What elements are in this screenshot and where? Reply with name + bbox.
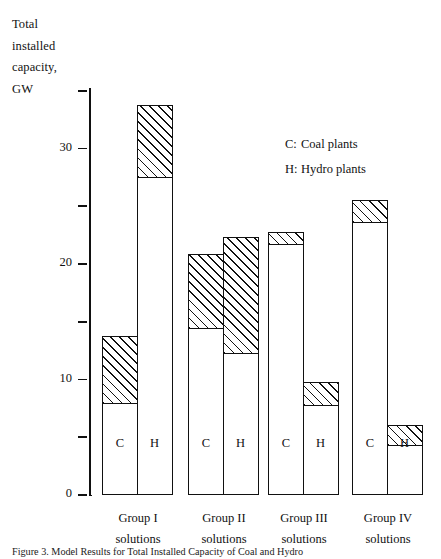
bar-segment-hatched: [138, 106, 172, 179]
bar-letter-c: C: [103, 436, 137, 451]
bar-group-ii-c: C: [188, 254, 224, 495]
legend-key-coal: C:: [285, 132, 301, 157]
bar-group-iv-c: C: [352, 200, 388, 495]
bar-segment-hatched: [353, 201, 387, 223]
bar-letter-h: H: [304, 436, 338, 451]
legend-item-hydro: H:Hydro plants: [285, 157, 366, 182]
bar-group-i-h: H: [137, 105, 173, 495]
bar-letter-h: H: [388, 436, 422, 451]
bar-letter-h: H: [224, 436, 258, 451]
legend: C:Coal plants H:Hydro plants: [285, 132, 366, 182]
bar-letter-h: H: [138, 436, 172, 451]
bar-group-iii-c: C: [268, 232, 304, 495]
bar-chart: Total installed capacity, GW 0102030 CHC…: [0, 0, 441, 559]
legend-key-hydro: H:: [285, 157, 301, 182]
bar-letter-c: C: [189, 436, 223, 451]
bar-letter-c: C: [269, 436, 303, 451]
legend-label-hydro: Hydro plants: [301, 162, 366, 176]
plot-area: CHCHCHCH: [0, 0, 441, 559]
bar-letter-c: C: [353, 436, 387, 451]
group-label-name: Group IV: [330, 508, 441, 529]
bar-segment-hatched: [224, 238, 258, 354]
bar-group-i-c: C: [102, 336, 138, 495]
bar-group-iii-h: H: [303, 382, 339, 495]
bar-segment-hatched: [103, 337, 137, 404]
bar-group-ii-h: H: [223, 237, 259, 495]
bar-segment-hatched: [304, 383, 338, 406]
bar-segment-hatched: [269, 233, 303, 246]
group-label-4: Group IVsolutions: [330, 508, 441, 550]
bar-segment-hatched: [189, 255, 223, 329]
legend-item-coal: C:Coal plants: [285, 132, 366, 157]
figure-caption: Figure 3. Model Results for Total Instal…: [12, 546, 432, 559]
legend-label-coal: Coal plants: [301, 137, 358, 151]
bar-group-iv-h: H: [387, 425, 423, 495]
